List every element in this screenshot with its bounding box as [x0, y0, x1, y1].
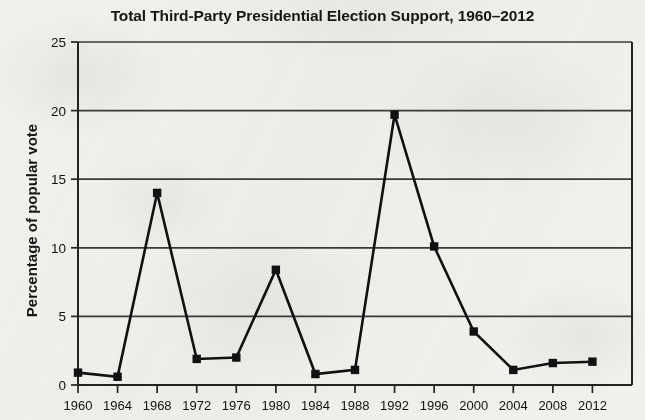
data-point-marker	[430, 242, 438, 250]
data-point-marker	[509, 366, 517, 374]
chart-plot-area: 0510152025 19601964196819721976198019841…	[0, 0, 645, 420]
x-tick-label: 1976	[222, 398, 251, 413]
data-point-marker	[311, 370, 319, 378]
x-tick-label: 2008	[538, 398, 567, 413]
x-tick-label: 2012	[578, 398, 607, 413]
y-tick-label: 0	[58, 378, 66, 393]
x-axis-ticks: 1960196419681972197619801984198819921996…	[64, 385, 607, 413]
x-tick-label: 1960	[64, 398, 93, 413]
data-point-marker	[153, 189, 161, 197]
x-tick-label: 1984	[301, 398, 330, 413]
x-tick-label: 1988	[341, 398, 370, 413]
data-point-marker	[74, 368, 82, 376]
data-point-marker	[470, 327, 478, 335]
x-tick-label: 1968	[143, 398, 172, 413]
x-tick-label: 1996	[420, 398, 449, 413]
y-tick-label: 20	[51, 104, 66, 119]
x-tick-label: 2000	[459, 398, 488, 413]
x-tick-label: 1992	[380, 398, 409, 413]
data-point-marker	[390, 111, 398, 119]
x-tick-label: 2004	[499, 398, 528, 413]
data-point-markers	[74, 111, 597, 381]
data-point-marker	[113, 373, 121, 381]
data-series-line	[78, 115, 592, 377]
x-tick-label: 1964	[103, 398, 132, 413]
y-tick-label: 10	[51, 241, 66, 256]
data-point-marker	[549, 359, 557, 367]
data-point-marker	[588, 357, 596, 365]
data-point-marker	[232, 353, 240, 361]
data-point-marker	[193, 355, 201, 363]
y-tick-label: 25	[51, 35, 66, 50]
x-tick-label: 1972	[182, 398, 211, 413]
x-tick-label: 1980	[261, 398, 290, 413]
data-point-marker	[351, 366, 359, 374]
y-axis-title: Percentage of popular vote	[23, 91, 40, 351]
data-point-marker	[272, 266, 280, 274]
y-axis-ticks: 0510152025	[51, 35, 78, 393]
y-tick-label: 5	[58, 309, 66, 324]
chart-title: Total Third-Party Presidential Election …	[0, 7, 645, 25]
y-tick-label: 15	[51, 172, 66, 187]
